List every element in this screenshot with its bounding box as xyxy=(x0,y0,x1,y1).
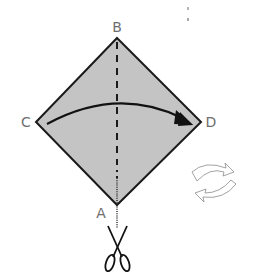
faint-marks xyxy=(187,7,189,21)
label-d: D xyxy=(206,114,217,130)
rotate-arrows-icon xyxy=(192,163,236,202)
folding-diagram: B C D A xyxy=(0,0,254,279)
scissors-icon xyxy=(104,226,132,272)
label-b: B xyxy=(112,19,122,35)
label-c: C xyxy=(21,114,31,130)
label-a: A xyxy=(96,205,106,221)
